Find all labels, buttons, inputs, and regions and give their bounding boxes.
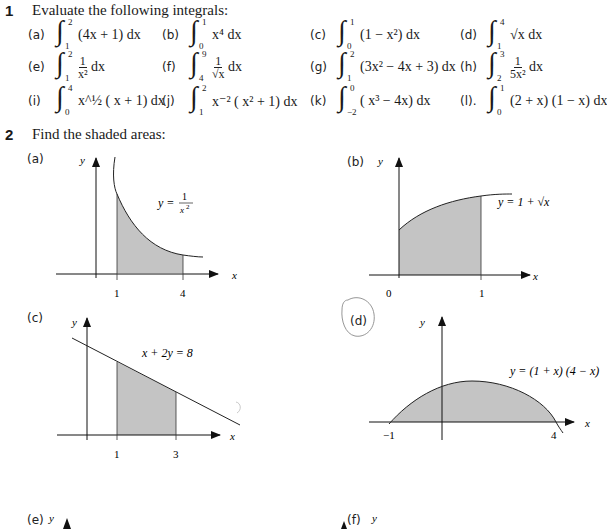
graph-c-equation: x + 2y = 8 — [141, 346, 193, 360]
svg-text:1: 1 — [182, 191, 187, 202]
graph-b-tick-0: 0 — [386, 287, 392, 299]
graph-c-tick-3: 3 — [173, 448, 179, 460]
graph-c-shaded-region — [117, 362, 176, 435]
graph-d-equation: y = (1 + x) (4 − x) — [509, 364, 599, 378]
graph-b-shaded-region — [399, 196, 481, 275]
graph-d-y-label: y — [419, 316, 425, 328]
graph-f-y-axis-arrow — [341, 521, 347, 529]
graph-e-y-label: y — [48, 512, 54, 524]
graph-f: y — [341, 512, 377, 529]
graph-d-tick-4: 4 — [551, 429, 557, 441]
svg-text:x: x — [179, 205, 184, 215]
graph-a-y-label: y — [79, 154, 85, 166]
graph-a-x-label: x — [231, 269, 237, 281]
graph-d-x-label: x — [584, 417, 590, 429]
graph-a-tick-4: 4 — [180, 287, 186, 299]
graphs-canvas: y x 1 4 y = 1 x 2 y x 0 1 y = 1 + √x y x… — [0, 0, 607, 529]
graph-f-y-label: y — [371, 512, 377, 524]
graph-b-y-label: y — [377, 155, 383, 167]
graph-d-tick-neg1: −1 — [383, 429, 395, 441]
graph-a-tick-1: 1 — [114, 287, 120, 299]
graph-b-x-label: x — [532, 270, 538, 282]
graph-c-x-label: x — [229, 430, 235, 442]
graph-b-equation: y = 1 + √x — [497, 195, 550, 209]
graph-a-equation-left: y = — [157, 196, 174, 210]
graph-e: y — [48, 512, 71, 529]
graph-e-y-axis-arrow — [63, 518, 71, 529]
graph-a: y x 1 4 y = 1 x 2 — [56, 154, 237, 299]
circle-annotation-icon — [342, 298, 374, 337]
graph-d-shaded-region — [391, 381, 556, 422]
svg-text:2: 2 — [186, 203, 190, 211]
graph-b-tick-1: 1 — [479, 287, 485, 299]
graph-c-tick-1: 1 — [114, 448, 120, 460]
graph-c-y-label: y — [71, 316, 77, 328]
graph-d: y x −1 4 y = (1 + x) (4 − x) — [342, 298, 599, 441]
graph-c: y x 1 3 x + 2y = 8 — [57, 316, 240, 460]
graph-b: y x 0 1 y = 1 + √x — [369, 155, 550, 299]
